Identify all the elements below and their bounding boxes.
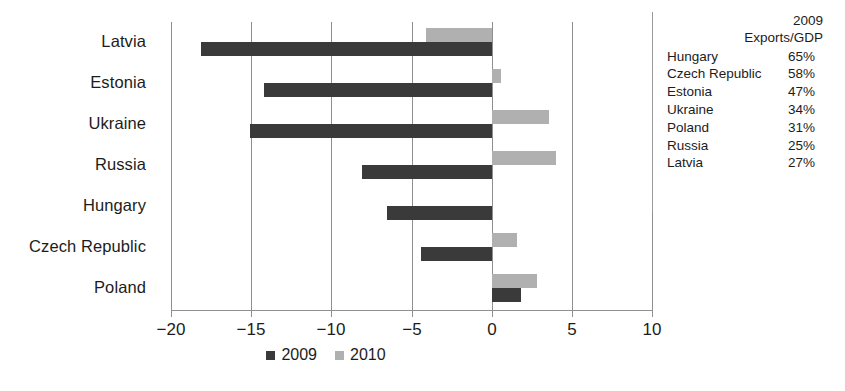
side-table-row: Czech Republic58% [667, 65, 845, 83]
side-table-header-year: 2009 [667, 12, 823, 29]
side-table-row: Russia25% [667, 137, 845, 155]
side-table-row: Latvia27% [667, 154, 845, 172]
x-tick-label-0: 0 [487, 320, 496, 340]
x-tick-mark-0 [492, 310, 493, 317]
x-tick-label--20: −20 [157, 320, 186, 340]
bar-ukraine-2009 [250, 124, 492, 138]
y-axis-label-russia: Russia [95, 155, 146, 174]
bar-ukraine-2010 [492, 110, 550, 124]
gridline-5 [572, 22, 573, 310]
x-tick-mark--5 [412, 310, 413, 317]
gridline--10 [331, 22, 332, 310]
x-tick-mark-5 [572, 310, 573, 317]
x-tick-label-5: 5 [567, 320, 576, 340]
chart-legend: 20092010 [0, 346, 652, 364]
y-axis-category-labels: LatviaEstoniaUkraineRussiaHungaryCzech R… [0, 20, 158, 310]
legend-label-2010: 2010 [350, 346, 386, 364]
bar-estonia-2010 [492, 69, 502, 83]
y-axis-label-czech-republic: Czech Republic [29, 237, 146, 256]
bar-estonia-2009 [264, 83, 492, 97]
side-table-rows: Hungary65%Czech Republic58%Estonia47%Ukr… [667, 48, 845, 173]
side-table-country: Ukraine [667, 101, 714, 119]
y-axis-label-estonia: Estonia [90, 72, 146, 91]
side-table-country: Estonia [667, 83, 712, 101]
x-tick-mark--20 [171, 310, 172, 317]
bar-poland-2010 [492, 274, 537, 288]
gridline-0 [492, 22, 493, 310]
x-tick-label-10: 10 [643, 320, 662, 340]
side-table-value: 34% [788, 101, 815, 119]
bar-latvia-2010 [426, 28, 492, 42]
legend-item-2010[interactable]: 2010 [335, 346, 386, 364]
bar-latvia-2009 [201, 42, 491, 56]
side-table-value: 65% [788, 48, 815, 66]
x-tick-label--10: −10 [317, 320, 346, 340]
side-table-value: 58% [788, 65, 815, 83]
legend-swatch-icon-2010 [335, 351, 344, 360]
gridline--20 [171, 22, 172, 310]
side-table-country: Poland [667, 119, 709, 137]
bar-russia-2010 [492, 151, 556, 165]
chart-figure: LatviaEstoniaUkraineRussiaHungaryCzech R… [0, 0, 845, 391]
side-table-row: Estonia47% [667, 83, 845, 101]
y-axis-label-latvia: Latvia [101, 31, 146, 50]
x-tick-mark-10 [652, 310, 653, 317]
side-table-country: Czech Republic [667, 65, 762, 83]
legend-swatch-icon-2009 [266, 351, 275, 360]
side-table-country: Hungary [667, 48, 718, 66]
x-tick-label--15: −15 [237, 320, 266, 340]
bar-russia-2009 [362, 165, 492, 179]
bar-hungary-2009 [387, 206, 491, 220]
side-table-value: 31% [788, 119, 815, 137]
y-axis-label-poland: Poland [94, 278, 146, 297]
y-axis-label-ukraine: Ukraine [88, 113, 146, 132]
side-table-value: 47% [788, 83, 815, 101]
side-table-row: Poland31% [667, 119, 845, 137]
side-table-row: Hungary65% [667, 48, 845, 66]
side-table-header: 2009 Exports/GDP [667, 12, 845, 47]
bar-poland-2009 [492, 288, 521, 302]
bar-czech-republic-2010 [492, 233, 518, 247]
side-table-row: Ukraine34% [667, 101, 845, 119]
legend-label-2009: 2009 [281, 346, 317, 364]
side-table-header-metric: Exports/GDP [667, 29, 823, 46]
y-axis-label-hungary: Hungary [83, 196, 146, 215]
side-table-country: Russia [667, 137, 708, 155]
legend-item-2009[interactable]: 2009 [266, 346, 317, 364]
bar-czech-republic-2009 [421, 247, 492, 261]
side-table-value: 25% [788, 137, 815, 155]
x-tick-mark--15 [251, 310, 252, 317]
side-table-country: Latvia [667, 154, 703, 172]
x-tick-mark--10 [331, 310, 332, 317]
side-table: 2009 Exports/GDP Hungary65%Czech Republi… [652, 12, 845, 212]
x-tick-label--5: −5 [402, 320, 421, 340]
plot-area [171, 22, 652, 310]
side-table-value: 27% [788, 154, 815, 172]
gridline--15 [251, 22, 252, 310]
